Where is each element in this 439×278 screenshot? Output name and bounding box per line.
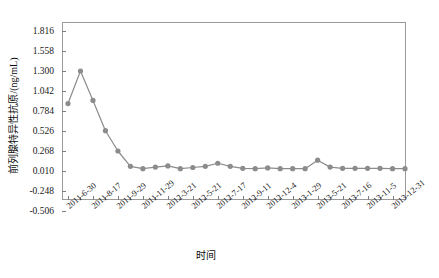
data-point <box>65 101 70 106</box>
data-point <box>278 166 283 171</box>
data-point <box>402 166 407 171</box>
data-point <box>215 161 220 166</box>
data-point <box>303 166 308 171</box>
data-point <box>377 166 382 171</box>
y-tick-mark <box>62 171 66 172</box>
series-layer <box>0 0 439 278</box>
y-tick-mark <box>62 71 66 72</box>
data-point <box>153 165 158 170</box>
data-point <box>128 164 133 169</box>
data-point <box>390 166 395 171</box>
y-tick-mark <box>62 51 66 52</box>
data-point <box>340 166 345 171</box>
data-point <box>352 166 357 171</box>
y-tick-mark <box>62 191 66 192</box>
data-point <box>253 166 258 171</box>
y-tick-mark <box>62 91 66 92</box>
y-tick-label: 1.816 <box>0 26 54 36</box>
y-tick-mark <box>62 31 66 32</box>
data-point <box>90 98 95 103</box>
y-tick-mark <box>62 151 66 152</box>
y-tick-label: -0.506 <box>0 206 54 216</box>
data-point <box>178 166 183 171</box>
data-point <box>365 166 370 171</box>
data-point <box>78 68 83 73</box>
y-tick-mark <box>62 211 66 212</box>
data-point <box>315 158 320 163</box>
data-point <box>290 166 295 171</box>
data-point <box>203 164 208 169</box>
data-point <box>328 165 333 170</box>
data-point <box>140 166 145 171</box>
data-point <box>190 165 195 170</box>
data-point <box>165 163 170 168</box>
data-point <box>115 148 120 153</box>
data-point <box>228 164 233 169</box>
psa-time-line-chart: 1.8161.5581.3001.0420.7840.5260.2680.010… <box>0 0 439 278</box>
x-axis-title: 时间 <box>196 247 216 262</box>
psa-series-line <box>68 71 405 169</box>
y-axis-title: 前列腺特异性抗原/(ng/mL) <box>5 36 20 196</box>
data-point <box>103 128 108 133</box>
psa-series-markers <box>65 68 407 171</box>
y-tick-mark <box>62 131 66 132</box>
data-point <box>240 166 245 171</box>
data-point <box>265 165 270 170</box>
y-tick-mark <box>62 111 66 112</box>
